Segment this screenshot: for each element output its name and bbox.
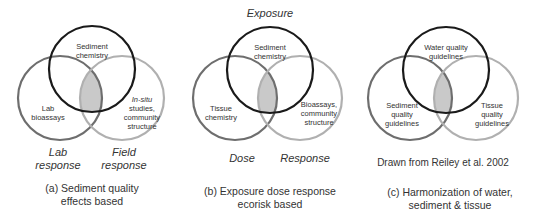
sublabel-response: Response: [272, 152, 338, 165]
caption-b-line1: (b) Exposure dose response: [204, 185, 336, 197]
caption-c: (c) Harmonization of water, sediment & t…: [375, 186, 525, 212]
label-a-right: In-situ studies, community structure: [116, 95, 168, 131]
caption-b: (b) Exposure dose response ecorisk based: [195, 185, 345, 211]
label-b-left: Tissue chemistry: [197, 104, 245, 122]
sublabel-dose: Dose: [222, 152, 262, 165]
sublabel-lab-response: Lab response: [33, 146, 83, 172]
caption-c-line1: (c) Harmonization of water,: [387, 186, 512, 198]
label-c-right: Tissue quality guidelines: [470, 101, 514, 128]
caption-a-line2: effects based: [61, 195, 123, 207]
label-b-right: Bioassays, community structure: [293, 100, 345, 127]
label-a-left: Lab bioassays: [25, 104, 71, 122]
caption-a-line1: (a) Sediment quality: [45, 182, 138, 194]
label-a-top: Sediment chemistry: [62, 42, 122, 60]
label-c-top: Water quality guidelines: [414, 43, 478, 61]
label-c-left: Sediment quality guidelines: [380, 101, 424, 128]
source-note: Drawn from Reiley et al. 2002: [368, 156, 518, 169]
label-a-right-italic: In-situ: [132, 95, 152, 104]
sublabel-field-response: Field response: [96, 146, 152, 172]
caption-b-line2: ecorisk based: [238, 198, 303, 210]
label-a-right-text: studies, community structure: [124, 104, 160, 131]
caption-c-line2: sediment & tissue: [409, 199, 492, 211]
label-exposure: Exposure: [240, 7, 300, 20]
label-b-top: Sediment chemistry: [240, 43, 300, 61]
caption-a: (a) Sediment quality effects based: [22, 182, 162, 208]
